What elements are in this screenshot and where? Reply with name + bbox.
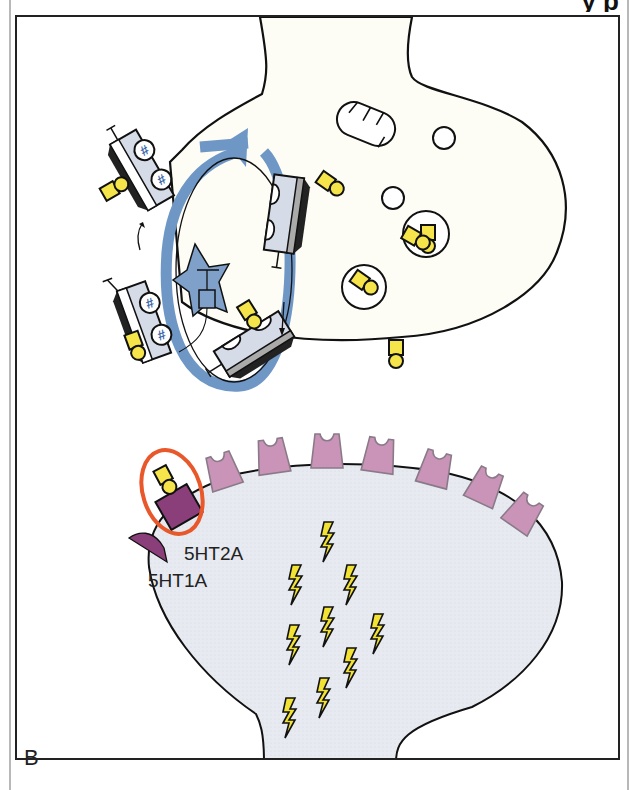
postsynaptic-neuron: [149, 464, 563, 760]
filled-vesicle: [401, 211, 449, 257]
panel-label: B: [24, 745, 39, 771]
clipped-title: y p: [0, 0, 633, 12]
label-5ht2a: 5HT2A: [184, 543, 243, 565]
label-5ht1a: 5HT1A: [148, 570, 207, 592]
empty-vesicle: [382, 187, 404, 209]
synapse-figure: # #: [15, 15, 620, 760]
page-edge-right: [627, 0, 629, 790]
serotonin-molecule: [389, 340, 403, 368]
empty-vesicle: [433, 127, 455, 149]
filled-vesicle: [342, 265, 386, 309]
synapse-diagram: # #: [17, 17, 620, 760]
page-edge-left: [9, 0, 11, 790]
transporter-top-left: [76, 114, 180, 226]
small-arrow-up: [138, 224, 142, 250]
